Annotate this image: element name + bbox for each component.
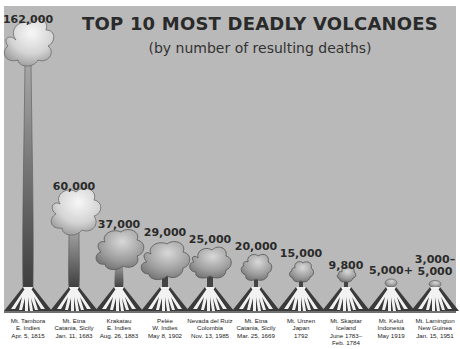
volcano-5 — [186, 247, 234, 311]
category-label-5: Nevada del RuizColombiaNov. 13, 1985 — [185, 317, 235, 339]
category-label-4: PeléeW. IndiesMay 8, 1902 — [140, 317, 190, 339]
value-label-10-line2: 5,000 — [400, 266, 460, 278]
category-label-3: KrakatauE. IndiesAug. 26, 1883 — [94, 317, 144, 339]
value-label-10: 3,000– 5,000 — [400, 254, 460, 278]
category-label-9: Mt. KelutIndonesiaMay 1919 — [366, 317, 416, 339]
category-label-2: Mt. EtnaCatania, SicilyJan. 11, 1683 — [49, 317, 99, 339]
volcano-3 — [95, 230, 144, 311]
value-label-7: 15,000 — [266, 248, 336, 260]
ground-line — [4, 311, 456, 313]
volcano-9 — [367, 279, 415, 311]
category-label-8: Mt. SkaptarIcelandJune 1783–Feb. 1784 — [321, 317, 371, 346]
volcano-6 — [232, 254, 280, 311]
category-label-10: Mt. LamingtonNew GuineaJan. 15, 1951 — [410, 317, 460, 339]
volcano-2 — [50, 188, 101, 311]
value-label-1: 162,000 — [0, 14, 63, 26]
category-label-7: Mt. UnzenJapan1792 — [276, 317, 326, 339]
volcano-10 — [411, 281, 459, 312]
volcano-4 — [141, 242, 190, 311]
volcano-pictograph — [0, 0, 460, 349]
category-label-6: Mt. EtnaCatania, SicilyMar. 25, 1669 — [231, 317, 281, 339]
volcano-1 — [4, 19, 54, 311]
category-label-1: Mt. TamboraE. IndiesApr. 5, 1815 — [3, 317, 53, 339]
value-label-2: 60,000 — [39, 181, 109, 193]
